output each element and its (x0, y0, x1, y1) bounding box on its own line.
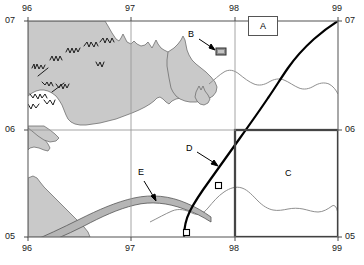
x-tick-top-97: 97 (125, 4, 135, 13)
x-tick-bottom-96: 96 (22, 244, 32, 253)
station-marker (216, 183, 222, 189)
x-tick-bottom-98: 98 (229, 244, 239, 253)
x-tick-top-99: 99 (332, 4, 342, 13)
x-tick-bottom-99: 99 (332, 244, 342, 253)
building-marker-b-inner (218, 50, 224, 53)
map-canvas (0, 0, 364, 265)
station-marker (184, 230, 190, 236)
feature-label-a: A (248, 16, 278, 36)
topographic-map-figure: 96 97 98 99 96 97 98 99 07 06 05 07 06 0… (0, 0, 364, 265)
y-tick-left-07: 07 (5, 16, 15, 25)
x-tick-bottom-97: 97 (125, 244, 135, 253)
y-tick-left-06: 06 (5, 125, 15, 134)
feature-label-c: C (285, 169, 292, 178)
y-tick-right-06: 06 (345, 125, 355, 134)
y-tick-right-07: 07 (345, 16, 355, 25)
feature-label-d: D (186, 144, 193, 153)
y-tick-left-05: 05 (5, 232, 15, 241)
feature-label-b: B (188, 30, 194, 39)
feature-label-e: E (138, 168, 144, 177)
x-tick-top-96: 96 (22, 4, 32, 13)
y-tick-right-05: 05 (345, 232, 355, 241)
x-tick-top-98: 98 (229, 4, 239, 13)
